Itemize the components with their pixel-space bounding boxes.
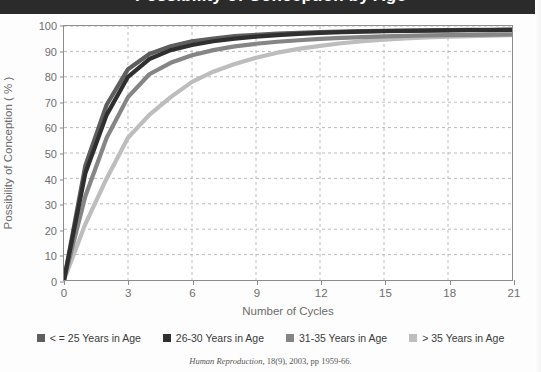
legend-label: < = 25 Years in Age: [50, 332, 141, 344]
legend-item[interactable]: 31-35 Years in Age: [286, 332, 387, 344]
y-tick-label: 40: [45, 174, 57, 186]
x-tick-label: 3: [125, 287, 131, 299]
x-axis-label: Number of Cycles: [63, 305, 513, 317]
y-tick-label: 10: [45, 250, 57, 262]
x-tick-mark: [321, 280, 322, 285]
y-tick-mark: [60, 256, 64, 257]
x-tick-label: 18: [443, 287, 456, 299]
x-tick-mark: [128, 280, 129, 285]
citation-details: , 18(9), 2003, pp 1959-66.: [262, 356, 351, 366]
y-tick-mark: [60, 128, 64, 129]
chart-legend: < = 25 Years in Age26-30 Years in Age31-…: [0, 332, 541, 344]
y-tick-mark: [60, 154, 64, 155]
x-tick-mark: [64, 280, 65, 285]
x-tick-label: 9: [254, 287, 260, 299]
legend-swatch-icon: [37, 334, 45, 342]
legend-label: 31-35 Years in Age: [299, 332, 387, 344]
y-tick-label: 0: [51, 276, 57, 288]
y-tick-mark: [60, 230, 64, 231]
legend-label: 26-30 Years in Age: [176, 332, 264, 344]
legend-label: > 35 Years in Age: [422, 332, 504, 344]
title-banner: Possibility of Conception by Age: [0, 0, 541, 14]
y-tick-label: 20: [45, 225, 57, 237]
y-tick-mark: [60, 51, 64, 52]
legend-item[interactable]: < = 25 Years in Age: [37, 332, 141, 344]
y-tick-label: 80: [45, 71, 57, 83]
x-tick-label: 21: [508, 287, 521, 299]
x-tick-label: 6: [189, 287, 195, 299]
x-tick-label: 12: [315, 287, 328, 299]
y-tick-mark: [60, 102, 64, 103]
y-axis-label: Possibility of Conception ( % ): [2, 77, 14, 230]
chart-area: Possibility of Conception ( % ) 01020304…: [0, 14, 541, 314]
citation-journal: Human Reproduction: [189, 356, 262, 366]
y-tick-label: 100: [39, 20, 57, 32]
plot-area: 0102030405060708090100 036912151821: [63, 25, 513, 281]
x-tick-mark: [514, 280, 515, 285]
chart-page: Possibility of Conception by Age Possibi…: [0, 0, 541, 372]
x-tick-mark: [450, 280, 451, 285]
x-tick-mark: [193, 280, 194, 285]
legend-swatch-icon: [409, 334, 417, 342]
legend-swatch-icon: [163, 334, 171, 342]
series-lines: [64, 26, 512, 280]
y-tick-mark: [60, 77, 64, 78]
x-tick-label: 15: [379, 287, 392, 299]
y-tick-label: 90: [45, 46, 57, 58]
y-tick-mark: [60, 179, 64, 180]
y-tick-label: 30: [45, 199, 57, 211]
legend-swatch-icon: [286, 334, 294, 342]
y-tick-label: 70: [45, 97, 57, 109]
page-title: Possibility of Conception by Age: [0, 0, 541, 6]
y-tick-label: 60: [45, 122, 57, 134]
x-tick-mark: [257, 280, 258, 285]
y-tick-mark: [60, 26, 64, 27]
y-tick-label: 50: [45, 148, 57, 160]
y-tick-mark: [60, 205, 64, 206]
source-citation: Human Reproduction, 18(9), 2003, pp 1959…: [0, 356, 541, 366]
x-tick-label: 0: [61, 287, 67, 299]
legend-item[interactable]: > 35 Years in Age: [409, 332, 504, 344]
legend-item[interactable]: 26-30 Years in Age: [163, 332, 264, 344]
x-tick-mark: [385, 280, 386, 285]
